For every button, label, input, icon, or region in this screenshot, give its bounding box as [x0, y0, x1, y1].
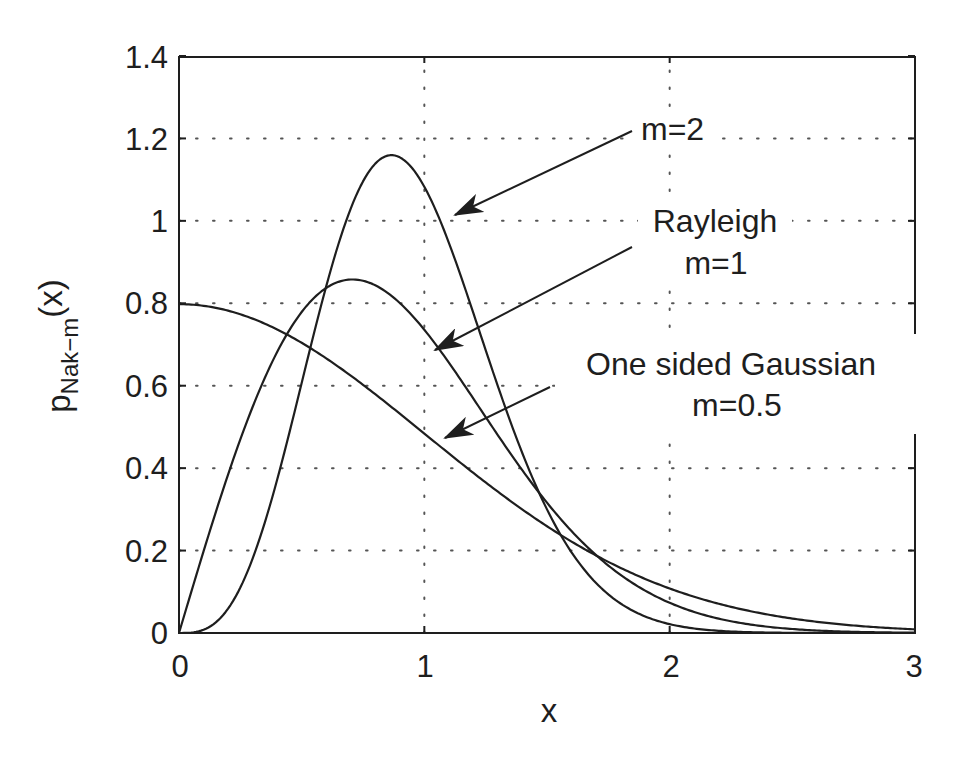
annotation-text: m=1 — [684, 245, 747, 281]
annotation-text: Rayleigh — [653, 203, 778, 239]
nakagami-pdf-chart: 0 0.2 0.4 0.6 0.8 1 1.2 1.4 0 1 2 3 x pN… — [0, 0, 962, 762]
curve-rayleigh — [179, 279, 915, 633]
xtick-label: 3 — [905, 649, 922, 684]
y-label-main: p — [40, 394, 77, 412]
ytick-label: 0.4 — [125, 451, 168, 486]
ytick-label: 0.2 — [125, 534, 168, 569]
y-axis-label: pNak−m(x) — [32, 279, 83, 413]
y-tick-labels: 0 0.2 0.4 0.6 0.8 1 1.2 1.4 — [125, 40, 168, 651]
ytick-label: 1 — [151, 204, 168, 239]
arrow-m2 — [455, 131, 632, 215]
ytick-label: 0.6 — [125, 369, 168, 404]
y-label-subscript: Nak−m — [56, 318, 83, 395]
x-tick-labels: 0 1 2 3 — [171, 649, 922, 684]
svg-text:pNak−m(x): pNak−m(x) — [32, 279, 83, 413]
x-axis-label: x — [541, 692, 558, 729]
arrow-rayleigh — [435, 247, 632, 350]
ytick-label: 1.2 — [125, 122, 168, 157]
annotation-m2: m=2 — [455, 111, 704, 215]
xtick-label: 2 — [662, 649, 679, 684]
annotation-text: m=2 — [641, 111, 704, 147]
ytick-label: 0 — [151, 616, 168, 651]
annotation-text: m=0.5 — [692, 387, 782, 423]
xtick-label: 1 — [416, 649, 433, 684]
annotation-text: One sided Gaussian — [586, 346, 876, 382]
arrow-gaussian — [445, 387, 550, 438]
y-label-argument: (x) — [32, 279, 69, 317]
xtick-label: 0 — [171, 649, 188, 684]
ytick-label: 1.4 — [125, 40, 168, 75]
annotation-rayleigh: Rayleigh m=1 — [435, 203, 777, 350]
ytick-label: 0.8 — [125, 286, 168, 321]
